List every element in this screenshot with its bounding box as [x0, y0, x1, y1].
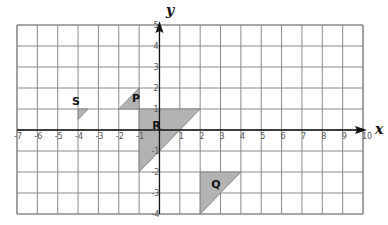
x-tick-label: 3 [220, 132, 225, 141]
x-tick-label: -6 [34, 132, 42, 141]
y-tick-label: -2 [151, 168, 159, 177]
tick-labels: -7-6-5-4-3-2-11234567891054321-1-2-3-4 [14, 21, 372, 219]
x-tick-label: -1 [136, 132, 144, 141]
x-tick-label: -4 [75, 132, 83, 141]
y-tick-label: 1 [153, 105, 158, 114]
y-tick-label: -3 [151, 189, 159, 198]
y-tick-label: 5 [153, 21, 158, 30]
y-tick-label: -4 [151, 210, 159, 219]
x-tick-label: -7 [14, 132, 22, 141]
coordinate-grid: -7-6-5-4-3-2-11234567891054321-1-2-3-4 x… [0, 0, 388, 225]
shape-label-s: S [72, 95, 80, 108]
x-tick-label: 4 [240, 132, 245, 141]
x-tick-label: -3 [95, 132, 103, 141]
shape-s [78, 109, 88, 120]
shape-r [139, 109, 200, 172]
x-tick-label: -2 [116, 132, 124, 141]
x-tick-label: 10 [362, 132, 372, 141]
x-tick-label: 6 [281, 132, 286, 141]
shape-label-q: Q [211, 178, 220, 191]
y-tick-label: 2 [153, 84, 158, 93]
x-tick-label: 7 [301, 132, 306, 141]
x-tick-label: 2 [199, 132, 204, 141]
x-axis-label: x [374, 121, 384, 137]
y-tick-label: -1 [151, 147, 159, 156]
y-axis-label: y [165, 2, 175, 18]
x-tick-label: 8 [321, 132, 326, 141]
x-tick-label: 1 [179, 132, 184, 141]
shape-label-p: P [132, 92, 140, 105]
shape-label-r: R [152, 119, 161, 132]
y-tick-label: 3 [153, 63, 158, 72]
x-tick-label: 9 [342, 132, 347, 141]
x-tick-label: 5 [260, 132, 265, 141]
x-tick-label: -5 [55, 132, 63, 141]
y-tick-label: 4 [153, 42, 158, 51]
